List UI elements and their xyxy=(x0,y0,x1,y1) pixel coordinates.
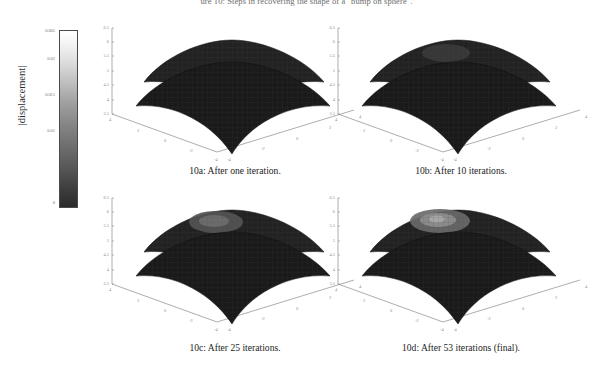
z-tick-d-1: 6 xyxy=(333,209,336,214)
x-tick-c-2: 0 xyxy=(164,308,167,313)
y-tick-b-4: 4 xyxy=(585,114,588,119)
z-tick-b-1: 6 xyxy=(333,39,336,44)
colorbar-tick-4: 0 xyxy=(53,200,55,205)
x-tick-d-4: -4 xyxy=(440,327,444,332)
x-tick-b-2: 0 xyxy=(390,138,393,143)
colorbar: |displacement| 0.02 0.015 0.01 0.005 0 xyxy=(4,28,96,218)
surface-plot-svg-d: 6.5 6 5.5 5 4.5 4 3.5 4 2 0 -2 -4 -4 -2 … xyxy=(318,192,604,334)
x-tick-c-4: -4 xyxy=(214,327,218,332)
z-tick-d-2: 5.5 xyxy=(330,223,336,228)
surface-plot-svg-b: 6.5 6 5.5 5 4.5 4 3.5 4 2 0 -2 -4 -4 -2 … xyxy=(318,22,604,164)
z-tick-a-2: 5.5 xyxy=(104,53,110,58)
z-tick-labels-c: 6.5 6 5.5 5 4.5 4 3.5 xyxy=(104,195,110,286)
z-tick-b-3: 5 xyxy=(333,68,336,73)
z-tick-labels-a: 6.5 6 5.5 5 4.5 4 3.5 xyxy=(104,25,110,116)
z-tick-c-6: 3.5 xyxy=(104,281,110,286)
x-tick-d-1: 2 xyxy=(363,298,365,303)
x-tick-a-0: 4 xyxy=(109,117,112,122)
x-tick-d-2: 0 xyxy=(390,308,393,313)
y-tick-c-1: -2 xyxy=(261,316,265,321)
z-tick-c-4: 4.5 xyxy=(104,252,110,257)
z-tick-b-0: 6.5 xyxy=(330,25,336,30)
x-tick-d-0: 4 xyxy=(335,287,338,292)
z-tick-b-2: 5.5 xyxy=(330,53,336,58)
x-tick-b-0: 4 xyxy=(335,117,338,122)
surface-mesh-b xyxy=(362,40,556,154)
y-tick-a-1: -2 xyxy=(261,146,265,151)
z-tick-d-5: 4 xyxy=(333,267,336,272)
y-tick-d-2: 0 xyxy=(522,306,525,311)
colorbar-tick-3: 0.005 xyxy=(45,28,55,33)
z-tick-c-1: 6 xyxy=(107,209,110,214)
z-tick-a-0: 6.5 xyxy=(104,25,110,30)
x-tick-b-4: -4 xyxy=(440,157,444,162)
x-tick-a-1: 2 xyxy=(137,128,139,133)
x-tick-c-3: -2 xyxy=(189,318,193,323)
z-tick-b-4: 4.5 xyxy=(330,82,336,87)
figure-top-caption: ure 10: Steps in recovering the shape of… xyxy=(0,0,613,6)
z-tick-d-0: 6.5 xyxy=(330,195,336,200)
z-tick-d-6: 3.5 xyxy=(330,281,336,286)
x-tick-a-4: -4 xyxy=(214,157,218,162)
colorbar-tick-1: 0.015 xyxy=(45,92,55,97)
y-tick-b-2: 0 xyxy=(522,136,525,141)
colorbar-tick-labels: 0.02 0.015 0.01 0.005 0 xyxy=(20,28,57,208)
surface-plot-10b: 6.5 6 5.5 5 4.5 4 3.5 4 2 0 -2 -4 -4 -2 … xyxy=(318,22,604,164)
y-tick-d-4: 4 xyxy=(585,284,588,289)
z-tick-a-5: 4 xyxy=(107,97,110,102)
z-tick-a-3: 5 xyxy=(107,68,110,73)
surface-panel-10b: 6.5 6 5.5 5 4.5 4 3.5 4 2 0 -2 -4 -4 -2 … xyxy=(318,22,604,174)
z-tick-a-4: 4.5 xyxy=(104,82,110,87)
y-tick-d-3: 2 xyxy=(555,295,557,300)
x-tick-b-1: 2 xyxy=(363,128,365,133)
x-tick-b-3: -2 xyxy=(415,148,419,153)
y-tick-a-2: 0 xyxy=(296,136,299,141)
z-tick-b-6: 3.5 xyxy=(330,111,336,116)
y-tick-b-0: -4 xyxy=(453,157,457,162)
x-tick-c-0: 4 xyxy=(109,287,112,292)
y-tick-c-2: 0 xyxy=(296,306,299,311)
z-tick-c-5: 4 xyxy=(107,267,110,272)
colorbar-tick-0: 0.02 xyxy=(47,56,55,61)
y-tick-a-0: -4 xyxy=(227,157,231,162)
y-tick-d-0: -4 xyxy=(453,327,457,332)
surface-mesh-d xyxy=(362,209,556,324)
z-tick-c-2: 5.5 xyxy=(104,223,110,228)
x-tick-c-1: 2 xyxy=(137,298,139,303)
y-tick-b-1: -2 xyxy=(487,146,491,151)
z-tick-a-1: 6 xyxy=(107,39,110,44)
z-tick-labels-d: 6.5 6 5.5 5 4.5 4 3.5 xyxy=(330,195,336,286)
surface-plot-10d: 6.5 6 5.5 5 4.5 4 3.5 4 2 0 -2 -4 -4 -2 … xyxy=(318,192,604,334)
z-tick-b-5: 4 xyxy=(333,97,336,102)
y-tick-c-0: -4 xyxy=(227,327,231,332)
z-tick-labels-b: 6.5 6 5.5 5 4.5 4 3.5 xyxy=(330,25,336,116)
surface-panel-10d: 6.5 6 5.5 5 4.5 4 3.5 4 2 0 -2 -4 -4 -2 … xyxy=(318,192,604,344)
z-tick-c-0: 6.5 xyxy=(104,195,110,200)
y-tick-d-1: -2 xyxy=(487,316,491,321)
z-tick-a-6: 3.5 xyxy=(104,111,110,116)
x-tick-d-3: -2 xyxy=(415,318,419,323)
z-tick-d-3: 5 xyxy=(333,238,336,243)
z-tick-d-4: 4.5 xyxy=(330,252,336,257)
panel-caption-10b: 10b: After 10 iterations. xyxy=(318,165,604,176)
x-tick-a-2: 0 xyxy=(164,138,167,143)
z-tick-c-3: 5 xyxy=(107,238,110,243)
colorbar-tick-2: 0.01 xyxy=(47,128,55,133)
colorbar-gradient-bar xyxy=(59,30,78,208)
y-tick-b-3: 2 xyxy=(555,125,557,130)
x-tick-a-3: -2 xyxy=(189,148,193,153)
panel-caption-10d: 10d: After 53 iterations (final). xyxy=(318,342,604,353)
surface-mesh-a xyxy=(136,40,330,154)
surface-mesh-c xyxy=(136,210,330,324)
